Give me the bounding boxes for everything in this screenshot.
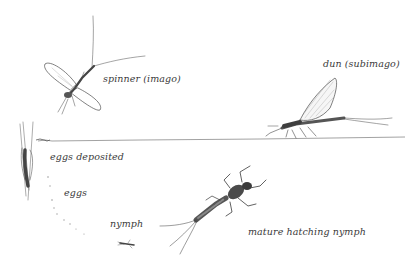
label-dun: dun (subimago) (323, 58, 400, 69)
label-eggs: eggs (64, 187, 87, 198)
mature-nymph-illustration (160, 166, 266, 254)
label-spinner: spinner (imago) (103, 73, 181, 84)
water-surface-line (38, 137, 405, 141)
mayfly-life-cycle-diagram: spinner (imago) dun (subimago) eggs depo… (0, 0, 405, 266)
label-nymph: nymph (110, 218, 143, 229)
dun-illustration (266, 78, 392, 138)
eggs-trail (47, 176, 84, 234)
spinner-illustration (45, 16, 145, 114)
label-mature-hatching-nymph: mature hatching nymph (248, 226, 366, 237)
egg-laying-spinner-illustration (20, 122, 33, 200)
nymph-illustration (118, 240, 134, 248)
label-eggs-deposited: eggs deposited (50, 151, 124, 162)
